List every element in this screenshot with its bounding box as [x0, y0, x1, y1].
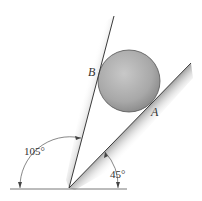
label-angle-105: 105° [24, 145, 45, 157]
label-point-a: A [150, 105, 159, 119]
sphere-between-planes-diagram: B A 105° 45° [0, 0, 202, 201]
arrowhead-icon [18, 182, 22, 188]
arrowhead-icon [116, 182, 120, 188]
label-angle-45: 45° [110, 168, 125, 180]
sphere [98, 50, 160, 112]
label-point-b: B [88, 65, 96, 79]
